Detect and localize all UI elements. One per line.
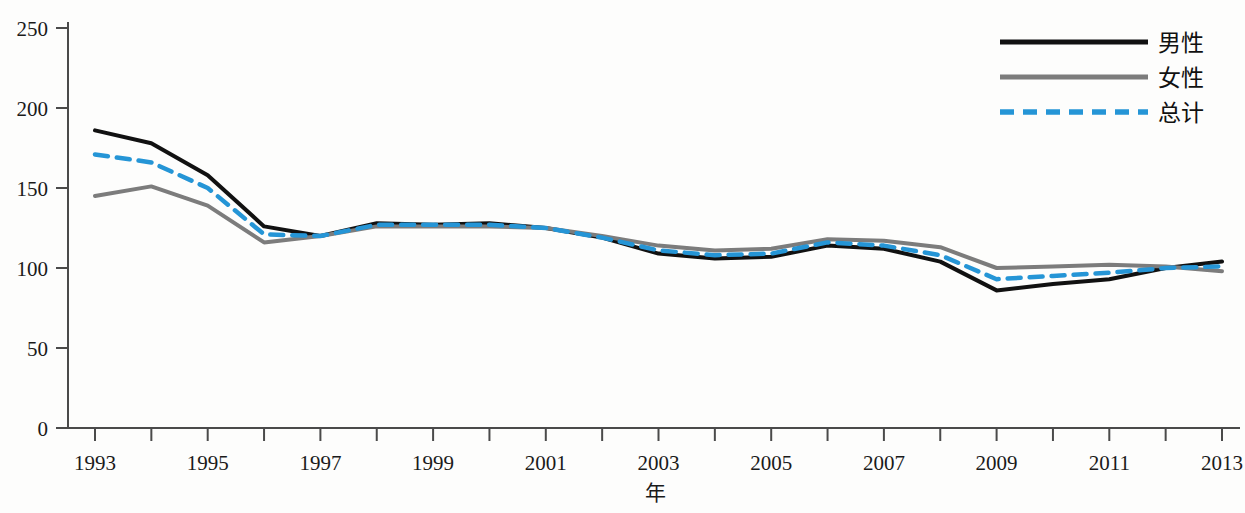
x-tick-label: 1993: [74, 451, 116, 475]
x-axis-ticks: [95, 428, 1222, 441]
y-axis-ticks: [56, 28, 68, 428]
y-tick-label: 0: [38, 417, 49, 441]
x-tick-label: 1999: [412, 451, 454, 475]
series-line-总计: [95, 154, 1222, 279]
x-axis-tick-labels: 1993199519971999200120032005200720092011…: [74, 451, 1243, 475]
series-line-女性: [95, 186, 1222, 271]
legend-label-男性: 男性: [1158, 30, 1204, 56]
y-tick-label: 150: [17, 177, 49, 201]
y-axis-tick-labels: 050100150200250: [17, 17, 49, 441]
x-tick-label: 2013: [1201, 451, 1243, 475]
y-tick-label: 50: [27, 337, 48, 361]
x-tick-label: 2007: [863, 451, 905, 475]
y-tick-label: 250: [17, 17, 49, 41]
x-tick-label: 2001: [525, 451, 567, 475]
line-chart: 050100150200250 199319951997199920012003…: [0, 0, 1245, 513]
y-tick-label: 100: [17, 257, 49, 281]
chart-legend: 男性女性总计: [1000, 30, 1204, 126]
chart-page: 050100150200250 199319951997199920012003…: [0, 0, 1245, 513]
y-tick-label: 200: [17, 97, 49, 121]
x-tick-label: 2009: [976, 451, 1018, 475]
x-tick-label: 1997: [299, 451, 341, 475]
series-group: [95, 130, 1222, 290]
legend-label-女性: 女性: [1158, 65, 1204, 91]
x-tick-label: 2005: [750, 451, 792, 475]
x-axis-title: 年: [645, 481, 666, 505]
axis-group: [68, 22, 1240, 428]
x-tick-label: 1995: [187, 451, 229, 475]
legend-label-总计: 总计: [1158, 100, 1204, 126]
x-tick-label: 2011: [1089, 451, 1130, 475]
x-tick-label: 2003: [638, 451, 680, 475]
